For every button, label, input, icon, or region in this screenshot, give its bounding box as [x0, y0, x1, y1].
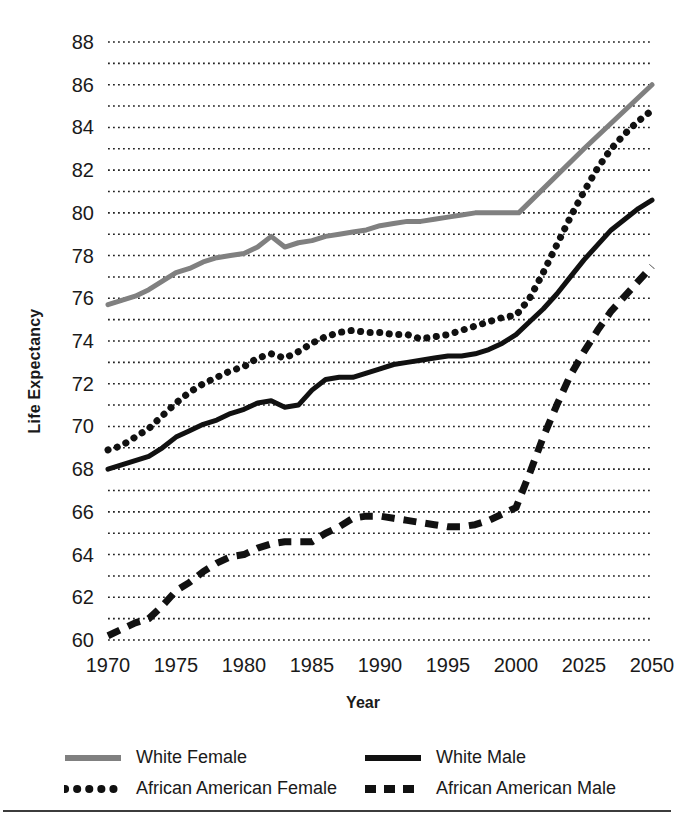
legend-swatch-white-male — [364, 751, 422, 765]
x-axis-title-wrap: Year — [0, 694, 678, 712]
chart-legend: White Female White Male African American… — [64, 742, 664, 804]
svg-text:66: 66 — [72, 501, 94, 523]
life-expectancy-chart-figure: Life Expectancy 606264666870727476788082… — [0, 0, 678, 823]
svg-text:76: 76 — [72, 287, 94, 309]
svg-text:80: 80 — [72, 202, 94, 224]
x-tick-labels-group: 197019751980198519901995200020252050 — [86, 654, 675, 676]
svg-text:1980: 1980 — [222, 654, 267, 676]
svg-text:64: 64 — [72, 544, 94, 566]
legend-label-white-male: White Male — [436, 747, 526, 768]
svg-text:1975: 1975 — [154, 654, 199, 676]
legend-label-white-female: White Female — [136, 747, 247, 768]
svg-text:82: 82 — [72, 159, 94, 181]
svg-text:68: 68 — [72, 458, 94, 480]
y-tick-labels-group: 606264666870727476788082848688 — [72, 31, 94, 651]
chart-plot-area: 606264666870727476788082848688 197019751… — [0, 0, 678, 700]
svg-text:60: 60 — [72, 629, 94, 651]
series-line-african-american-male — [108, 266, 652, 635]
svg-text:86: 86 — [72, 74, 94, 96]
legend-item-white-female: White Female — [64, 742, 364, 773]
legend-item-white-male: White Male — [364, 742, 664, 773]
legend-swatch-white-female — [64, 751, 122, 765]
legend-label-african-american-male: African American Male — [436, 778, 616, 799]
svg-text:1985: 1985 — [290, 654, 335, 676]
svg-text:2050: 2050 — [630, 654, 675, 676]
gridlines-group — [108, 42, 652, 640]
svg-text:78: 78 — [72, 245, 94, 267]
legend-swatch-african-american-male — [364, 782, 422, 796]
svg-text:1990: 1990 — [358, 654, 403, 676]
data-series-group — [108, 85, 652, 636]
series-line-white-female — [108, 85, 652, 305]
legend-row-2: African American Female African American… — [64, 773, 664, 804]
legend-row-1: White Female White Male — [64, 742, 664, 773]
svg-text:62: 62 — [72, 586, 94, 608]
svg-text:70: 70 — [72, 415, 94, 437]
svg-text:72: 72 — [72, 373, 94, 395]
svg-text:2025: 2025 — [562, 654, 607, 676]
legend-item-african-american-female: African American Female — [64, 773, 364, 804]
x-axis-title: Year — [298, 694, 380, 711]
svg-text:84: 84 — [72, 116, 94, 138]
legend-item-african-american-male: African American Male — [364, 773, 664, 804]
svg-text:1970: 1970 — [86, 654, 131, 676]
legend-swatch-african-american-female — [64, 782, 122, 796]
bottom-divider — [3, 810, 671, 812]
svg-text:2000: 2000 — [494, 654, 539, 676]
legend-label-african-american-female: African American Female — [136, 778, 337, 799]
svg-text:88: 88 — [72, 31, 94, 53]
svg-text:1995: 1995 — [426, 654, 471, 676]
svg-text:74: 74 — [72, 330, 94, 352]
